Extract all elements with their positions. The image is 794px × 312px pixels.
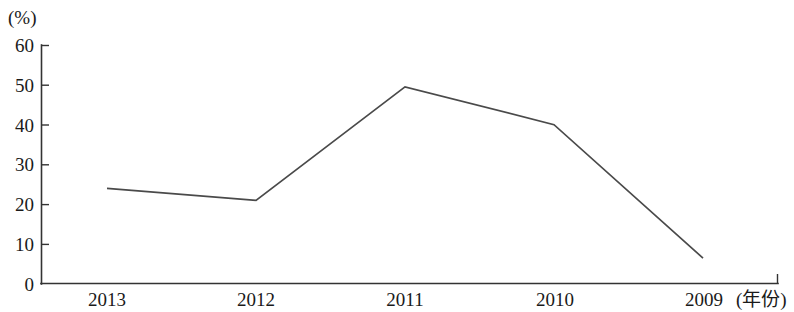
x-tick-label-2012: 2012 (237, 289, 275, 310)
y-axis-unit-label: (%) (8, 7, 36, 29)
x-tick-label-2010: 2010 (536, 289, 574, 310)
y-tick-label-20: 20 (15, 194, 34, 215)
x-axis-unit-label: (年份) (736, 289, 787, 311)
y-tick-label-50: 50 (15, 75, 34, 96)
x-tick-label-2013: 2013 (88, 289, 126, 310)
chart-page: (%) 60 50 40 30 20 10 0 2013 2012 2011 2… (0, 0, 794, 312)
x-tick-label-2011: 2011 (386, 289, 423, 310)
y-tick-label-60: 60 (15, 35, 34, 56)
x-tick-label-2009: 2009 (685, 289, 723, 310)
line-chart: (%) 60 50 40 30 20 10 0 2013 2012 2011 2… (0, 0, 794, 312)
y-tick-label-30: 30 (15, 154, 34, 175)
y-tick-label-0: 0 (25, 274, 35, 295)
y-tick-label-10: 10 (15, 234, 34, 255)
y-tick-label-40: 40 (15, 115, 34, 136)
data-series-line (107, 87, 703, 258)
